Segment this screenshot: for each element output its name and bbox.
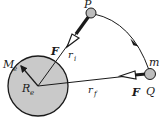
force-arrow-p-icon (67, 34, 79, 47)
label-p: P (83, 0, 92, 11)
label-r-initial-sub: i (74, 55, 76, 63)
path-direction-arrow-icon (130, 38, 138, 48)
force-shaft-p (76, 16, 89, 34)
label-earth-mass-sub: e (13, 65, 17, 73)
label-r-final-sub: f (93, 90, 98, 98)
label-force-q: F (131, 86, 141, 99)
label-earth-radius-sub: e (30, 89, 34, 97)
label-q: Q (146, 85, 155, 98)
transfer-path (94, 14, 149, 70)
force-arrow-q-icon (120, 71, 136, 79)
point-q (145, 69, 156, 80)
label-m: m (149, 56, 159, 69)
label-force-p: F (50, 45, 60, 58)
label-earth-radius: R (21, 82, 30, 95)
orbital-diagram: P m Q F F r i r f M e R e (0, 0, 166, 128)
